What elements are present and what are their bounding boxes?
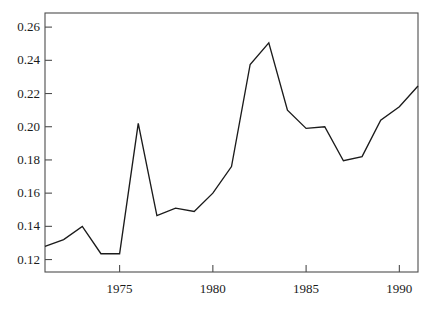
x-tick-label: 1985 <box>282 282 330 296</box>
y-tick-label: 0.16 <box>0 186 40 200</box>
y-tick-label: 0.20 <box>0 120 40 134</box>
y-axis-ticks <box>45 27 52 259</box>
y-tick-label: 0.18 <box>0 153 40 167</box>
x-tick-label: 1980 <box>189 282 237 296</box>
y-tick-label: 0.24 <box>0 53 40 67</box>
x-axis-ticks <box>120 265 400 272</box>
chart-figure: 0.120.140.160.180.200.220.240.26 1975198… <box>0 0 432 318</box>
y-tick-label: 0.14 <box>0 219 40 233</box>
y-tick-label: 0.26 <box>0 20 40 34</box>
y-tick-label: 0.22 <box>0 87 40 101</box>
plot-frame <box>45 13 418 272</box>
x-tick-label: 1975 <box>96 282 144 296</box>
plot-area <box>0 0 432 318</box>
data-line-series-1 <box>45 43 418 254</box>
x-tick-label: 1990 <box>375 282 423 296</box>
y-tick-label: 0.12 <box>0 253 40 267</box>
